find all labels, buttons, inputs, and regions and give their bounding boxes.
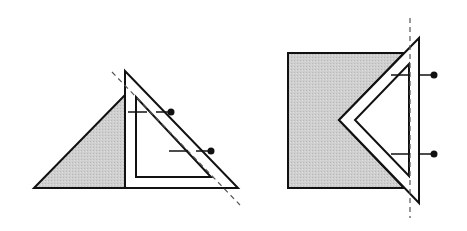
- diagonal-dashed-guide: [112, 72, 240, 205]
- pin-lower: [169, 148, 215, 155]
- pin-dot-icon: [431, 72, 438, 79]
- set-square-inner: [136, 97, 211, 177]
- right-figure: [288, 18, 438, 218]
- pin-dot-icon: [431, 151, 438, 158]
- shaded-triangle: [34, 95, 125, 188]
- diagram-canvas: [0, 0, 467, 231]
- set-square-outer: [125, 71, 238, 188]
- pin-dot-icon: [208, 148, 215, 155]
- pin-dot-icon: [168, 109, 175, 116]
- left-figure: [34, 71, 240, 205]
